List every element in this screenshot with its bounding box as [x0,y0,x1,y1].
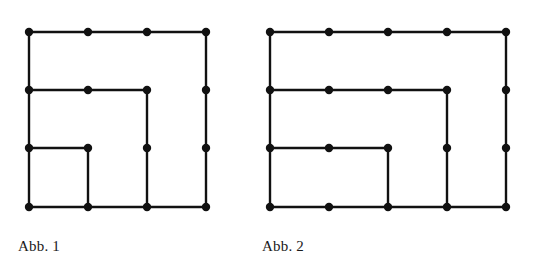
lattice-node-c2-r2 [325,86,333,94]
lattice-node-c1-r2 [25,86,33,94]
lattice-node-c2-r1 [325,28,333,36]
figure-canvas: Abb. 1 Abb. 2 [0,0,538,276]
lattice-node-c2-r2 [84,86,92,94]
lattice-node-c3-r3 [384,144,392,152]
lattice-node-c4-r4 [202,203,210,211]
lattice-node-c1-r4 [25,203,33,211]
lattice-node-c3-r1 [384,28,392,36]
lattice-node-c5-r2 [502,86,510,94]
figure-2-caption: Abb. 2 [262,237,304,255]
figure-1-caption: Abb. 1 [18,237,60,255]
lattice-node-c3-r3 [143,144,151,152]
lattice-node-c2-r1 [84,28,92,36]
lattice-node-c1-r4 [266,203,274,211]
lattice-node-c2-r4 [325,203,333,211]
lattice-node-c3-r4 [384,203,392,211]
lattice-edge-group [29,32,206,207]
lattice-node-c2-r3 [84,144,92,152]
figure-1-block: Abb. 1 [0,0,260,276]
lattice-node-c5-r3 [502,144,510,152]
lattice-node-c1-r2 [266,86,274,94]
lattice-node-c5-r4 [502,203,510,211]
lattice-node-c4-r4 [443,203,451,211]
lattice-node-c4-r3 [202,144,210,152]
lattice-node-c4-r3 [443,144,451,152]
lattice-dot-group [25,28,210,211]
lattice-node-c3-r1 [143,28,151,36]
lattice-node-c1-r3 [266,144,274,152]
lattice-node-c4-r1 [202,28,210,36]
lattice-node-c4-r2 [202,86,210,94]
lattice-edge-group [270,32,506,207]
figure-2-block: Abb. 2 [254,0,514,276]
lattice-node-c5-r1 [502,28,510,36]
lattice-node-c1-r3 [25,144,33,152]
lattice-node-c1-r1 [25,28,33,36]
lattice-node-c1-r1 [266,28,274,36]
lattice-node-c3-r2 [384,86,392,94]
figure-2-lattice-diagram [254,0,524,230]
lattice-node-c2-r3 [325,144,333,152]
lattice-node-c4-r1 [443,28,451,36]
lattice-node-c3-r2 [143,86,151,94]
lattice-node-c3-r4 [143,203,151,211]
figure-1-lattice-diagram [0,0,260,230]
lattice-node-c4-r2 [443,86,451,94]
lattice-node-c2-r4 [84,203,92,211]
